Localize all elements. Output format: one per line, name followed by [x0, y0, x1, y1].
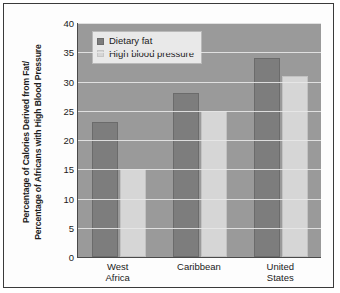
tickmark-20: [77, 140, 78, 141]
tickmark-40: [77, 23, 78, 24]
gridline-10: [78, 199, 321, 200]
bar-1-0[interactable]: [173, 93, 199, 257]
x-axis-category-2-line: States: [240, 272, 321, 283]
y-axis-tick-10: 10: [52, 193, 74, 204]
x-axis-category-0-line: Africa: [77, 272, 158, 283]
tickmark-30: [77, 82, 78, 83]
bar-0-0[interactable]: [92, 122, 118, 257]
gridline-15: [78, 169, 321, 170]
bar-2-1[interactable]: [282, 76, 308, 257]
tickmark-10: [77, 199, 78, 200]
y-axis-tick-labels: 4035302520151050: [52, 18, 74, 262]
y-axis-tick-5: 5: [52, 222, 74, 233]
legend-label-dietary-fat: Dietary fat: [109, 35, 152, 48]
y-axis-title: Percentage of Calories Derived from Fat/…: [12, 22, 52, 262]
plot-area: Dietary fat High blood pressure: [77, 23, 321, 258]
tickmark-35: [77, 52, 78, 53]
tickmark-5: [77, 228, 78, 229]
y-axis-title-line-1: Percentage of Calories Derived from Fat/: [21, 44, 33, 240]
y-axis-tick-30: 30: [52, 76, 74, 87]
chart-legend: Dietary fat High blood pressure: [92, 31, 202, 64]
y-axis-title-line-2: Percentage of Africans with High Blood P…: [32, 44, 44, 240]
gridline-35: [78, 52, 321, 53]
legend-item-dietary-fat: Dietary fat: [97, 35, 194, 48]
x-axis-category-0-line: West: [77, 261, 158, 272]
tickmark-15: [77, 169, 78, 170]
y-axis-tick-20: 20: [52, 135, 74, 146]
x-axis-category-0: WestAfrica: [77, 261, 158, 283]
gridline-20: [78, 140, 321, 141]
y-axis-tick-0: 0: [52, 252, 74, 263]
x-axis-category-1: Caribbean: [158, 261, 239, 283]
x-axis-category-2: UnitedStates: [240, 261, 321, 283]
x-axis-category-labels: WestAfricaCaribbeanUnitedStates: [77, 261, 321, 283]
bar-0-1[interactable]: [120, 169, 146, 257]
bar-1-1[interactable]: [201, 111, 227, 257]
legend-label-high-blood-pressure: High blood pressure: [109, 48, 194, 61]
tickmark-25: [77, 111, 78, 112]
y-axis-tick-40: 40: [52, 18, 74, 29]
gridline-40: [78, 23, 321, 24]
x-axis-category-1-line: Caribbean: [158, 261, 239, 272]
tickmark-0: [77, 257, 78, 258]
chart-page-frame: Percentage of Calories Derived from Fat/…: [3, 3, 334, 288]
y-axis-tick-25: 25: [52, 105, 74, 116]
y-axis-tick-35: 35: [52, 47, 74, 58]
x-axis-category-2-line: United: [240, 261, 321, 272]
gridline-5: [78, 228, 321, 229]
legend-swatch-icon-dietary-fat: [97, 38, 104, 45]
y-axis-tick-15: 15: [52, 164, 74, 175]
gridline-30: [78, 82, 321, 83]
gridline-25: [78, 111, 321, 112]
legend-item-high-blood-pressure: High blood pressure: [97, 48, 194, 61]
y-axis-title-text: Percentage of Calories Derived from Fat/…: [21, 44, 44, 240]
